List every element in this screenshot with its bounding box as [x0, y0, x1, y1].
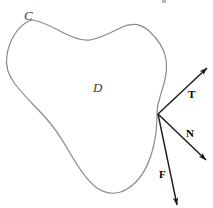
normal-vector-arrow	[158, 114, 206, 160]
tangent-vector-label: T	[188, 89, 195, 100]
force-vector-label: F	[159, 169, 166, 180]
curve-label-c: C	[24, 9, 33, 22]
closed-curve-c	[6, 20, 166, 193]
force-vector-arrow	[158, 114, 177, 205]
scan-artifact-speck	[162, 0, 166, 3]
region-label-d: D	[93, 81, 102, 94]
figure-canvas	[0, 0, 213, 208]
vector-field-figure: C D T N F	[0, 0, 213, 208]
normal-vector-label: N	[186, 128, 194, 139]
